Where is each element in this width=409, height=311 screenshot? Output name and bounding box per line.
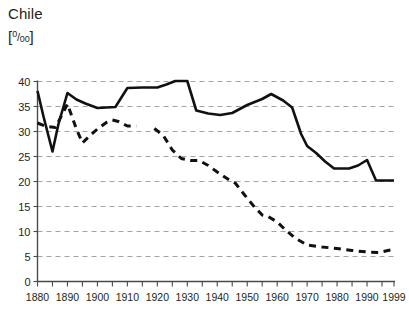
- series-birth-rate: [38, 81, 395, 181]
- y-tick-label: 40: [18, 76, 30, 88]
- y-tick-label: 5: [24, 251, 30, 263]
- y-tick-label: 20: [18, 176, 30, 188]
- x-tick-label: 1930: [176, 291, 200, 303]
- axis-lines: [38, 81, 396, 282]
- x-tick-label: 1950: [236, 291, 260, 303]
- series-death-rate-segment-1: [154, 129, 394, 253]
- x-tick-label: 1990: [355, 291, 379, 303]
- x-tick-label: 1910: [116, 291, 140, 303]
- series-death-rate-segment-0: [38, 104, 137, 143]
- y-tick-label: 25: [18, 151, 30, 163]
- x-tick-label: 1920: [146, 291, 170, 303]
- chart-container: Chile [0/00] 0510152025303540 1880189019…: [0, 0, 409, 311]
- x-tick-label: 1960: [265, 291, 289, 303]
- y-tick-label: 15: [18, 201, 30, 213]
- x-tick-label: 1999: [382, 291, 406, 303]
- x-tick-label: 1890: [56, 291, 80, 303]
- chart-plot: 0510152025303540 18801890190019101920193…: [0, 0, 409, 311]
- x-tick-label: 1940: [206, 291, 230, 303]
- x-axis-ticks: [38, 282, 395, 287]
- x-tick-label: 1980: [325, 291, 349, 303]
- x-tick-label: 1970: [295, 291, 319, 303]
- y-tick-label: 35: [18, 101, 30, 113]
- x-tick-label: 1900: [86, 291, 110, 303]
- y-tick-label: 0: [24, 276, 30, 288]
- x-axis-tick-labels: 1880189019001910192019301940195019601970…: [26, 291, 406, 303]
- y-axis-tick-labels: 0510152025303540: [18, 76, 30, 288]
- x-tick-label: 1880: [26, 291, 50, 303]
- y-tick-label: 10: [18, 226, 30, 238]
- y-tick-label: 30: [18, 126, 30, 138]
- data-series: [38, 81, 395, 253]
